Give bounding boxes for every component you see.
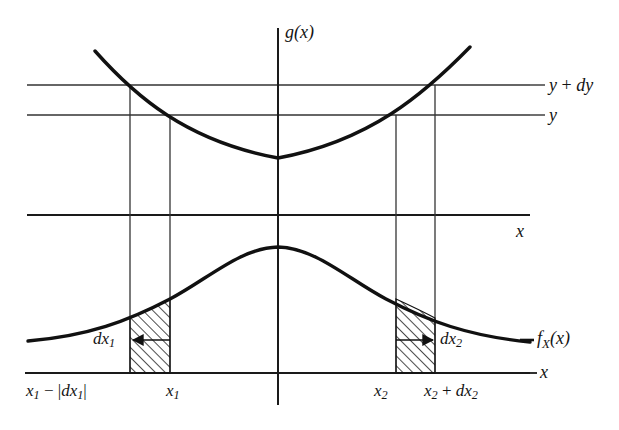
tick-label-x1: x1 (166, 382, 180, 402)
tick-label-x2: x2 (374, 382, 388, 402)
axis-label-g-of-x: g(x) (285, 23, 314, 41)
density-function-label: fX(x) (537, 329, 570, 351)
tick-label-x1-minus-abs-dx1: x1 − |dx1| (26, 382, 87, 402)
level-label-y: y (549, 106, 557, 124)
level-label-y-plus-dy: y + dy (549, 76, 593, 94)
curve-g-of-x (95, 47, 470, 158)
upper-x-axis-label: x (516, 222, 524, 240)
tick-label-x2-plus-dx2: x2 + dx2 (424, 382, 478, 402)
lower-x-axis-label: x (540, 363, 548, 381)
interval-label-dx1: dx1 (93, 330, 115, 350)
figure-canvas (0, 0, 619, 430)
shaded-region-dx2 (396, 299, 435, 373)
transformation-figure: g(x) y + dy y x fX(x) x dx1 dx2 x1 − |dx… (0, 0, 619, 430)
interval-label-dx2: dx2 (440, 330, 462, 350)
